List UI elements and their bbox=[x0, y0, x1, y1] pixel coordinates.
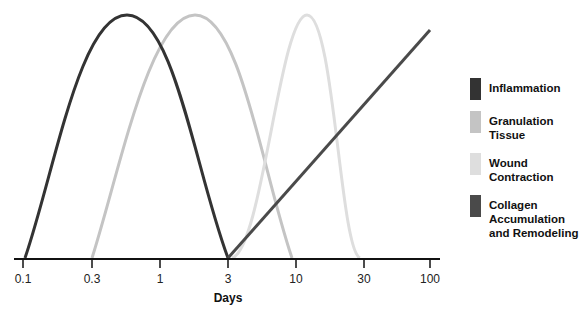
x-ticks bbox=[23, 259, 430, 268]
legend-label: Inflammation bbox=[489, 81, 561, 95]
x-tick-label: 30 bbox=[357, 272, 371, 286]
x-tick-label: 0.1 bbox=[15, 272, 32, 286]
x-axis-label: Days bbox=[214, 291, 243, 305]
legend-swatch bbox=[470, 153, 481, 175]
legend-item-inflammation: Inflammation bbox=[470, 78, 584, 100]
x-tick-label: 3 bbox=[225, 272, 232, 286]
legend-item-granulation: Granulation Tissue bbox=[470, 111, 584, 142]
series-collagen bbox=[228, 30, 430, 258]
legend: Inflammation Granulation Tissue Wound Co… bbox=[470, 78, 584, 251]
x-tick-label: 0.3 bbox=[84, 272, 101, 286]
series-wound-contraction bbox=[232, 15, 360, 258]
legend-swatch bbox=[470, 195, 481, 217]
legend-swatch bbox=[470, 78, 481, 100]
x-tick-label: 10 bbox=[289, 272, 303, 286]
legend-label: Granulation Tissue bbox=[489, 114, 554, 142]
x-tick-label: 100 bbox=[420, 272, 440, 286]
legend-label: Collagen Accumulation and Remodeling bbox=[489, 198, 578, 240]
x-tick-label: 1 bbox=[157, 272, 164, 286]
legend-label: Wound Contraction bbox=[489, 156, 554, 184]
legend-item-wound-contraction: Wound Contraction bbox=[470, 153, 584, 184]
legend-swatch bbox=[470, 111, 481, 133]
legend-item-collagen: Collagen Accumulation and Remodeling bbox=[470, 195, 584, 240]
